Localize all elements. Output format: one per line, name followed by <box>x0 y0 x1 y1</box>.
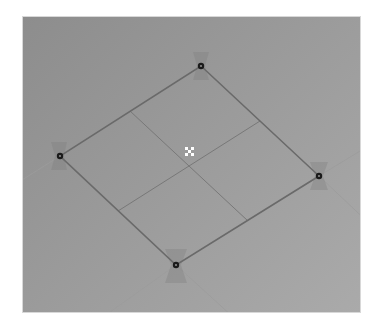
vertex-handle-icon[interactable] <box>57 153 63 159</box>
guide-lines <box>23 137 360 312</box>
vertex-handle-icon[interactable] <box>316 173 322 179</box>
viewport-canvas[interactable] <box>23 17 360 312</box>
pivot-icon[interactable] <box>185 147 194 156</box>
subdivision-lines <box>118 111 260 221</box>
3d-viewport[interactable] <box>23 17 360 312</box>
vertex-handle-icon[interactable] <box>198 63 204 69</box>
vertex-handle-icon[interactable] <box>173 262 179 268</box>
vertex-gizmos <box>51 52 328 283</box>
